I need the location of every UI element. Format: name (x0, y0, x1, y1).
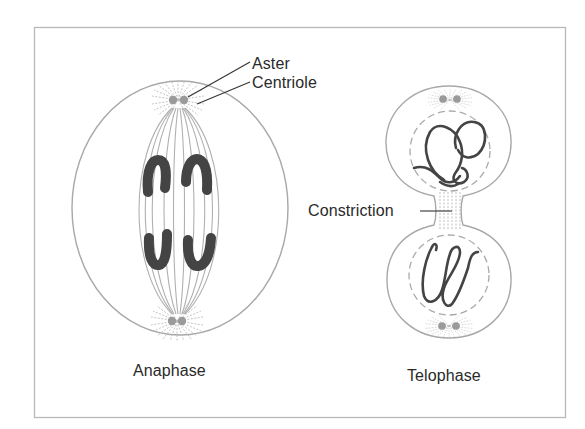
centriole-icon (452, 322, 460, 330)
chromosome-bottom-right (188, 238, 211, 266)
centriole-icon (438, 322, 446, 330)
caption-telophase: Telophase (407, 368, 481, 384)
centriole-icon (169, 96, 177, 104)
chromatin-top (414, 122, 485, 186)
chromatin-bottom (423, 244, 478, 306)
aster-top (152, 79, 204, 119)
chromosome-top-right (186, 159, 207, 190)
label-centriole: Centriole (252, 75, 317, 91)
nucleus-bottom (409, 235, 489, 315)
diagram-canvas (0, 0, 585, 429)
centriole-leader-line (197, 82, 250, 104)
chromosome-top-left (148, 160, 166, 192)
telophase-cell (386, 86, 511, 339)
centriole-icon (168, 317, 176, 325)
chromosomes (148, 159, 211, 266)
chromosome-bottom-left (149, 234, 167, 265)
anaphase-cell-membrane (72, 81, 288, 335)
mitosis-diagram: Aster Centriole Constriction Anaphase Te… (0, 0, 585, 429)
telophase-cell-membrane (386, 86, 511, 338)
centriole-icon (453, 95, 461, 103)
label-aster: Aster (252, 56, 290, 72)
caption-anaphase: Anaphase (133, 363, 206, 379)
centriole-icon (178, 317, 186, 325)
aster-leader-line (188, 62, 250, 97)
centriole-icon (439, 95, 447, 103)
label-constriction: Constriction (308, 203, 394, 219)
centriole-icon (180, 96, 188, 104)
telophase-aster-bottom (426, 315, 473, 339)
telophase-aster-top (428, 88, 472, 110)
anaphase-cell (72, 79, 288, 342)
spindle-fibers (139, 108, 219, 314)
